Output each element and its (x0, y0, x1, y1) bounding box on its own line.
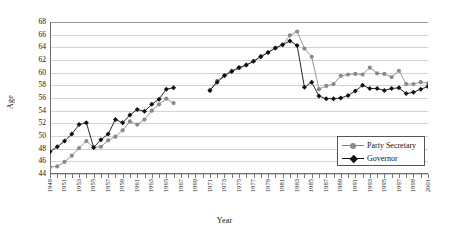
x-axis-tick-label: 1965 (163, 179, 170, 192)
x-axis-tick (130, 174, 131, 178)
x-axis-tick (224, 174, 225, 178)
data-point-diamond-icon (113, 117, 118, 122)
x-axis-tick (334, 174, 335, 178)
data-point-diamond-icon (338, 96, 343, 101)
x-axis-tick-label: 1967 (178, 179, 185, 192)
legend-swatch-circle-icon (342, 141, 364, 151)
series-line (50, 88, 174, 152)
x-axis-tick (108, 174, 109, 178)
data-point-diamond-icon (266, 50, 271, 55)
data-point-diamond-icon (273, 45, 278, 50)
x-axis-tick-label: 1961 (134, 179, 141, 192)
x-axis-tick (195, 174, 196, 178)
data-point-circle-icon (70, 154, 74, 158)
x-axis-tick (283, 174, 284, 178)
x-axis-tick (101, 174, 102, 178)
data-point-circle-icon (171, 101, 175, 105)
y-axis-tick-label: 48 (22, 145, 46, 153)
data-point-circle-icon (99, 145, 103, 149)
x-axis-tick (319, 174, 320, 178)
data-point-circle-icon (404, 82, 408, 86)
x-axis-tick (399, 174, 400, 178)
data-point-diamond-icon (346, 93, 351, 98)
x-axis-tick-label: 1959 (119, 179, 126, 192)
data-point-diamond-icon (287, 39, 292, 44)
x-axis-tick-label: 1975 (236, 179, 243, 192)
x-axis-tick (246, 174, 247, 178)
data-point-circle-icon (382, 72, 386, 76)
x-axis-tick (268, 174, 269, 178)
data-point-diamond-icon (411, 90, 416, 95)
x-axis-tick (65, 174, 66, 178)
data-point-circle-icon (157, 102, 161, 106)
legend-item-governor: Governor (342, 152, 420, 165)
x-axis-tick (152, 174, 153, 178)
x-axis-tick-label: 1989 (337, 179, 344, 192)
x-axis-tick-label: 1995 (381, 179, 388, 192)
x-axis-tick (79, 174, 80, 178)
data-point-circle-icon (353, 72, 357, 76)
data-point-circle-icon (390, 75, 394, 79)
data-point-circle-icon (62, 160, 66, 164)
data-point-diamond-icon (84, 120, 89, 125)
legend-label: Governor (364, 154, 398, 163)
data-point-circle-icon (411, 82, 415, 86)
x-axis-tick (377, 174, 378, 178)
data-point-circle-icon (121, 128, 125, 132)
x-axis-tick (217, 174, 218, 178)
x-axis-tick (123, 174, 124, 178)
data-point-diamond-icon (244, 63, 249, 68)
x-axis-tick-label: 1957 (105, 179, 112, 192)
x-axis-tick (188, 174, 189, 178)
data-point-circle-icon (368, 66, 372, 70)
x-axis-tick-label: 1997 (396, 179, 403, 192)
y-axis-tick-label: 58 (22, 81, 46, 89)
x-axis-tick-label: 1955 (90, 179, 97, 192)
x-axis-tick (304, 174, 305, 178)
x-axis-tick (166, 174, 167, 178)
x-axis-tick (261, 174, 262, 178)
x-axis-tick (203, 174, 204, 178)
x-axis-tick (50, 174, 51, 178)
data-point-circle-icon (295, 29, 299, 33)
data-point-diamond-icon (331, 96, 336, 101)
data-point-circle-icon (50, 165, 52, 169)
y-axis-tick-label: 50 (22, 132, 46, 140)
y-axis-tick-label: 60 (22, 69, 46, 77)
x-axis-tick-label: 1979 (265, 179, 272, 192)
x-axis-tick (348, 174, 349, 178)
data-point-diamond-icon (418, 87, 423, 92)
x-axis-tick-label: 1971 (207, 179, 214, 192)
y-axis-tick-label: 54 (22, 107, 46, 115)
data-point-circle-icon (106, 138, 110, 142)
x-axis-tick (232, 174, 233, 178)
y-axis-tick-label: 46 (22, 157, 46, 165)
x-axis-tick (239, 174, 240, 178)
x-axis-tick-label: 2001 (425, 179, 432, 192)
x-axis-tick-label: 1949 (47, 179, 54, 192)
data-point-circle-icon (84, 139, 88, 143)
data-point-circle-icon (360, 72, 364, 76)
x-axis-tick-label: 1993 (367, 179, 374, 192)
data-point-diamond-icon (382, 88, 387, 93)
data-point-diamond-icon (171, 85, 176, 90)
y-axis-tick-label: 66 (22, 31, 46, 39)
x-axis-tick (290, 174, 291, 178)
x-axis-tick (275, 174, 276, 178)
data-point-diamond-icon (375, 86, 380, 91)
y-axis-tick-label: 52 (22, 119, 46, 127)
x-axis-tick (421, 174, 422, 178)
data-point-circle-icon (317, 87, 321, 91)
chart-figure: Age Year 44464850525456586062646668 1949… (0, 0, 449, 234)
data-point-circle-icon (339, 74, 343, 78)
series-line (210, 32, 428, 91)
x-axis-tick (341, 174, 342, 178)
legend: Party Secretary Governor (337, 136, 425, 166)
legend-label: Party Secretary (364, 141, 416, 150)
data-point-circle-icon (113, 135, 117, 139)
x-axis-tick (326, 174, 327, 178)
x-axis-tick (72, 174, 73, 178)
data-point-circle-icon (142, 117, 146, 121)
data-point-circle-icon (419, 80, 423, 84)
x-axis-tick (363, 174, 364, 178)
